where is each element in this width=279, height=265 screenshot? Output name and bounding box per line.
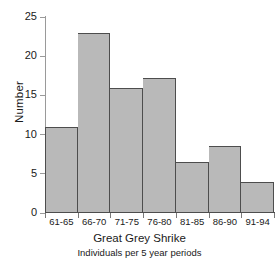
chart-title: Great Grey Shrike	[0, 232, 279, 244]
bar	[176, 162, 209, 213]
x-axis-labels: 61-6566-7071-7576-8081-8586-9091-94	[45, 216, 274, 227]
bar	[110, 88, 143, 213]
bar-cell	[241, 17, 274, 213]
x-tick-label: 71-75	[110, 216, 143, 227]
y-tick-label: 5	[13, 167, 37, 179]
x-tick-label: 76-80	[143, 216, 176, 227]
histogram-chart: Number 0510152025 61-6566-7071-7576-8081…	[0, 0, 279, 265]
bar-cell	[209, 17, 242, 213]
plot-area: 0510152025	[45, 17, 274, 213]
bar-series	[45, 17, 274, 213]
bar-cell	[176, 17, 209, 213]
bar	[143, 78, 176, 213]
y-tick-label: 10	[13, 128, 37, 140]
bar-cell	[78, 17, 111, 213]
x-tick-mark	[274, 213, 275, 218]
x-tick-label: 81-85	[176, 216, 209, 227]
bar	[241, 182, 274, 213]
x-tick-label: 61-65	[45, 216, 78, 227]
y-tick-label: 0	[13, 206, 37, 218]
bar-cell	[143, 17, 176, 213]
bar	[78, 33, 111, 213]
y-tick-label: 25	[13, 10, 37, 22]
y-tick-label: 20	[13, 49, 37, 61]
bar-cell	[45, 17, 78, 213]
bar-cell	[110, 17, 143, 213]
x-tick-label: 91-94	[241, 216, 274, 227]
y-tick-label: 15	[13, 88, 37, 100]
x-tick-label: 86-90	[209, 216, 242, 227]
bar	[209, 146, 242, 213]
bar	[45, 127, 78, 213]
chart-subtitle: Individuals per 5 year periods	[0, 247, 279, 258]
x-tick-label: 66-70	[78, 216, 111, 227]
